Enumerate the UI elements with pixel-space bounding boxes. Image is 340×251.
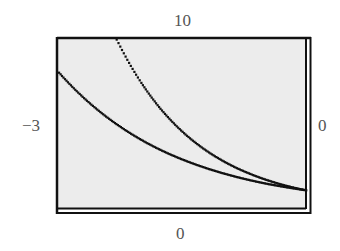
curve-point-series-0 [146, 90, 148, 92]
curve-point-series-0 [149, 95, 151, 97]
plot-area [0, 0, 340, 251]
curve-point-series-0 [119, 46, 121, 48]
ymin-label: 0 [176, 225, 185, 242]
curve-point-series-0 [154, 100, 156, 102]
curve-point-series-0 [123, 52, 125, 54]
curve-point-series-0 [142, 84, 144, 86]
curve-point-series-0 [155, 102, 157, 104]
curve-point-series-0 [121, 49, 123, 51]
curve-point-series-0 [132, 68, 134, 70]
curve-point-series-0 [137, 76, 139, 78]
curve-point-series-0 [135, 74, 137, 76]
curve-point-series-0 [130, 65, 132, 67]
curve-point-series-0 [140, 82, 142, 84]
curve-point-series-0 [152, 98, 154, 100]
curve-point-series-0 [126, 59, 128, 61]
curve-point-series-0 [145, 88, 147, 90]
xmax-label: 0 [318, 117, 327, 134]
curve-point-series-0 [148, 93, 150, 95]
curve-point-series-0 [128, 62, 130, 64]
xmin-label: −3 [22, 117, 40, 134]
curve-point-series-0 [125, 56, 127, 58]
plot-background [57, 38, 306, 208]
ymax-label: 10 [174, 12, 191, 29]
curve-point-series-0 [151, 97, 153, 99]
curve-point-series-0 [133, 71, 135, 73]
curve-point-series-0 [139, 79, 141, 81]
curve-point-series-0 [117, 42, 119, 44]
curve-point-series-0 [143, 86, 145, 88]
